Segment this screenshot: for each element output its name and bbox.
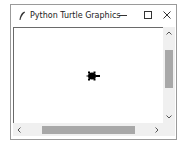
vertical-scroll-thumb[interactable] bbox=[165, 50, 173, 88]
horizontal-scrollbar[interactable] bbox=[13, 123, 163, 136]
window-content bbox=[13, 27, 175, 138]
close-icon bbox=[162, 10, 172, 20]
maximize-icon bbox=[143, 10, 153, 20]
title-bar[interactable]: Python Turtle Graphics bbox=[11, 5, 176, 27]
turtle-window: Python Turtle Graphics bbox=[10, 4, 177, 140]
minimize-button[interactable] bbox=[113, 7, 133, 23]
maximize-button[interactable] bbox=[138, 7, 158, 23]
feather-icon bbox=[18, 11, 26, 21]
scroll-down-button[interactable] bbox=[163, 111, 175, 123]
scroll-up-button[interactable] bbox=[163, 27, 175, 39]
chevron-down-icon bbox=[166, 115, 172, 119]
horizontal-scroll-thumb[interactable] bbox=[42, 126, 135, 134]
scrollbar-corner bbox=[163, 123, 175, 136]
window-title: Python Turtle Graphics bbox=[30, 10, 120, 21]
chevron-right-icon bbox=[155, 127, 159, 133]
scroll-left-button[interactable] bbox=[13, 123, 25, 136]
turtle-icon bbox=[85, 70, 101, 82]
chevron-up-icon bbox=[166, 31, 172, 35]
scroll-right-button[interactable] bbox=[151, 123, 163, 136]
minimize-icon bbox=[118, 10, 128, 20]
turtle-canvas[interactable] bbox=[13, 27, 163, 123]
close-button[interactable] bbox=[157, 7, 177, 23]
chevron-left-icon bbox=[17, 127, 21, 133]
vertical-scrollbar[interactable] bbox=[163, 27, 175, 123]
